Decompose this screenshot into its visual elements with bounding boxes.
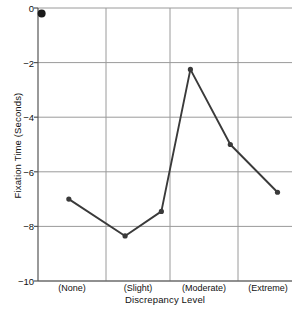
data-point-fixation-time-4 bbox=[228, 142, 233, 147]
chart-figure: Fixation Time (Seconds) 0 −2 −4 −6 −8 −1… bbox=[0, 0, 300, 309]
data-point-baseline-point-0 bbox=[38, 9, 46, 17]
data-point-fixation-time-2 bbox=[159, 209, 164, 214]
axis-lines bbox=[34, 8, 292, 281]
data-point-fixation-time-5 bbox=[275, 190, 280, 195]
data-point-fixation-time-3 bbox=[188, 67, 193, 72]
data-series bbox=[38, 9, 280, 238]
data-point-fixation-time-0 bbox=[66, 197, 71, 202]
plot-area bbox=[0, 0, 300, 309]
data-point-fixation-time-1 bbox=[122, 233, 127, 238]
series-line-fixation-time bbox=[69, 69, 278, 236]
gridlines bbox=[38, 8, 292, 281]
